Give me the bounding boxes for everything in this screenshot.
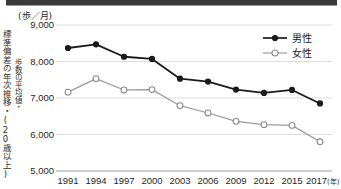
y-axis-tick-label: 5,000 xyxy=(20,165,54,176)
x-axis-tick-label: 2003 xyxy=(169,175,190,186)
x-axis-tick-label: 2006 xyxy=(197,175,218,186)
data-point[interactable] xyxy=(177,76,183,82)
data-point[interactable] xyxy=(121,54,127,60)
y-axis-tick-label: 9,000 xyxy=(20,19,54,30)
x-axis-tick-label: 1994 xyxy=(85,175,106,186)
data-point[interactable] xyxy=(317,100,323,106)
data-point[interactable] xyxy=(121,87,127,93)
data-point[interactable] xyxy=(93,41,99,47)
data-point[interactable] xyxy=(233,118,239,124)
legend-item-female[interactable]: 女性 xyxy=(262,45,338,60)
legend-label-female: 女性 xyxy=(292,45,312,60)
legend-marker-filled-circle-icon xyxy=(262,32,288,44)
data-point[interactable] xyxy=(93,76,99,82)
data-point[interactable] xyxy=(177,103,183,109)
x-axis-tick-label: 1991 xyxy=(57,175,78,186)
data-point[interactable] xyxy=(205,110,211,116)
data-point[interactable] xyxy=(205,78,211,84)
x-axis-tick-label: 2015 xyxy=(281,175,302,186)
data-point[interactable] xyxy=(65,89,71,95)
chart-legend: 男性 女性 xyxy=(262,30,338,60)
data-point[interactable] xyxy=(317,139,323,145)
x-axis-tick-label: 2017(年) xyxy=(306,175,340,186)
chart-figure: 標準偏差の年次推移・(20歳以上) 歩数の平均値・ (歩／月) 9,0008,0… xyxy=(0,0,341,189)
data-point[interactable] xyxy=(65,45,71,51)
x-axis-tick-label: 2012 xyxy=(253,175,274,186)
y-axis-tick-labels: 9,0008,0007,0006,0005,000 xyxy=(16,0,54,189)
data-point[interactable] xyxy=(289,87,295,93)
y-axis-tick-label: 7,000 xyxy=(20,92,54,103)
vertical-axis-caption-outer: 標準偏差の年次推移・(20歳以上) xyxy=(1,30,10,179)
y-axis-tick-label: 6,000 xyxy=(20,129,54,140)
x-axis-tick-label: 1997 xyxy=(113,175,134,186)
data-point[interactable] xyxy=(289,122,295,128)
x-axis-tick-label: 2000 xyxy=(141,175,162,186)
data-point[interactable] xyxy=(261,90,267,96)
x-axis-unit-suffix: (年) xyxy=(327,178,339,186)
legend-label-male: 男性 xyxy=(292,30,312,45)
data-point[interactable] xyxy=(233,87,239,93)
x-axis-tick-labels: 1991199419972000200320062009201220152017… xyxy=(56,175,338,189)
y-axis-tick-label: 8,000 xyxy=(20,56,54,67)
x-axis-tick-label: 2009 xyxy=(225,175,246,186)
data-point[interactable] xyxy=(149,56,155,62)
data-point[interactable] xyxy=(261,122,267,128)
legend-marker-open-circle-icon xyxy=(262,47,288,59)
data-point[interactable] xyxy=(149,87,155,93)
page-top-rule xyxy=(6,5,337,6)
series-line xyxy=(68,79,320,142)
legend-item-male[interactable]: 男性 xyxy=(262,30,338,45)
